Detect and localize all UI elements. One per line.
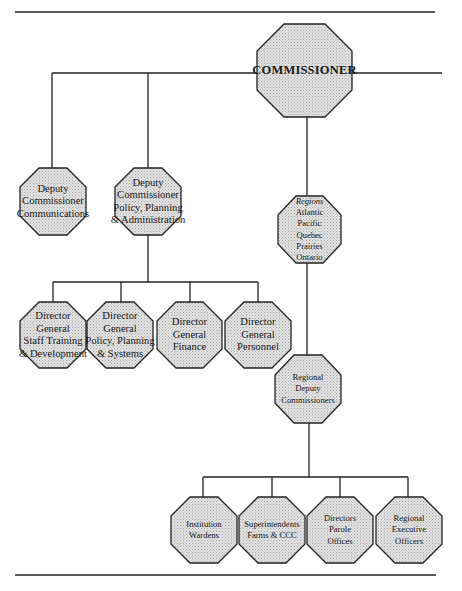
node-text: & Development [19, 348, 87, 361]
node-text: Director [240, 316, 275, 329]
node-text: Regional [393, 513, 424, 524]
node-text: Deputy [37, 183, 68, 196]
regions-title: Regions [296, 196, 324, 207]
institution-wardens-node: Institution Wardens [171, 497, 237, 563]
region-atlantic: Atlantic [296, 207, 324, 218]
node-text: Director [102, 310, 137, 323]
node-text: General [241, 329, 275, 342]
deputy-communications-node: Deputy Commissioner Communications [20, 168, 86, 235]
commissioner-label: COMMISSIONER [257, 24, 352, 117]
node-text: Superintendents [244, 519, 299, 530]
node-text: Institution [186, 519, 221, 530]
node-text: Director [35, 310, 70, 323]
deputy-policy-node: Deputy Commissioner Policy, Planning & A… [115, 168, 181, 235]
node-text: Staff Training [24, 335, 83, 348]
directors-parole-node: Directors Parole Offices [307, 497, 373, 563]
region-prairies: Prairies [296, 241, 322, 252]
node-text: Director [172, 316, 207, 329]
regional-executive-node: Regional Executive Officers [376, 497, 442, 563]
node-text: Directors [324, 513, 356, 524]
node-text: & Systems [97, 348, 143, 361]
node-text: Personnel [237, 341, 279, 354]
node-text: COMMISSIONER [252, 63, 357, 78]
node-text: Executive [392, 524, 426, 535]
region-pacific: Pacific [298, 218, 322, 229]
node-text: & Administration [111, 214, 185, 227]
node-text: Regional [292, 372, 323, 383]
node-text: General [103, 323, 137, 336]
node-text: Communications [17, 208, 89, 221]
regional-deputy-node: Regional Deputy Commissioners [275, 355, 341, 423]
region-quebec: Quebec [296, 230, 322, 241]
node-text: Commissioner [22, 195, 84, 208]
node-text: Officers [395, 536, 423, 547]
node-text: Commissioner [117, 189, 179, 202]
node-text: Farms & CCC [247, 530, 297, 541]
superintendents-node: Superintendents Farms & CCC [239, 497, 305, 563]
dg-finance-node: Director General Finance [157, 302, 222, 368]
node-text: Deputy [295, 383, 320, 394]
node-text: General [36, 323, 70, 336]
node-text: Policy, Planning [85, 335, 154, 348]
dg-policy-systems-node: Director General Policy, Planning & Syst… [87, 302, 153, 368]
node-text: Commissioners [281, 395, 334, 406]
region-ontario: Ontario [296, 252, 322, 263]
regions-node: Regions Atlantic Pacific Quebec Prairies… [278, 196, 341, 263]
node-text: Wardens [189, 530, 219, 541]
node-text: Finance [173, 341, 207, 354]
dg-staff-training-node: Director General Staff Training & Develo… [20, 302, 86, 368]
node-text: Parole [329, 524, 351, 535]
node-text: Offices [327, 536, 352, 547]
node-text: General [173, 329, 207, 342]
node-text: Policy, Planning [113, 202, 182, 215]
node-text: Deputy [132, 177, 163, 190]
